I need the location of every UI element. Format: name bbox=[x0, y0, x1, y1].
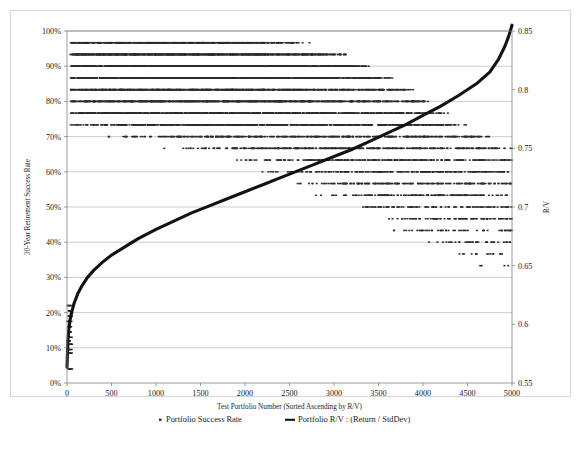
scatter-point bbox=[285, 124, 287, 126]
scatter-point bbox=[260, 54, 262, 56]
scatter-point bbox=[211, 42, 213, 44]
scatter-point bbox=[493, 241, 495, 243]
scatter-point bbox=[135, 112, 137, 114]
scatter-point bbox=[278, 124, 280, 126]
scatter-point bbox=[440, 124, 442, 126]
scatter-point bbox=[111, 89, 113, 91]
scatter-point bbox=[278, 112, 280, 114]
scatter-point bbox=[196, 112, 198, 114]
scatter-point bbox=[182, 42, 184, 44]
scatter-point bbox=[173, 42, 175, 44]
scatter-point bbox=[136, 77, 138, 79]
scatter-point bbox=[470, 136, 472, 138]
scatter-point bbox=[156, 42, 158, 44]
scatter-point bbox=[332, 171, 334, 173]
scatter-point bbox=[471, 195, 473, 197]
scatter-point bbox=[129, 77, 131, 79]
scatter-point bbox=[353, 183, 355, 185]
scatter-point bbox=[414, 206, 416, 208]
scatter-point bbox=[412, 206, 414, 208]
scatter-point bbox=[276, 65, 278, 67]
scatter-point bbox=[178, 42, 180, 44]
scatter-point bbox=[148, 89, 150, 91]
scatter-point bbox=[208, 77, 210, 79]
scatter-point bbox=[422, 101, 424, 103]
scatter-point bbox=[233, 136, 235, 138]
scatter-point bbox=[86, 124, 88, 126]
scatter-point bbox=[368, 159, 370, 161]
scatter-point bbox=[358, 101, 360, 103]
scatter-point bbox=[486, 241, 488, 243]
scatter-point bbox=[293, 148, 295, 150]
scatter-point bbox=[211, 65, 213, 67]
scatter-point bbox=[255, 65, 257, 67]
scatter-point bbox=[96, 65, 98, 67]
scatter-point bbox=[498, 148, 500, 150]
scatter-point bbox=[144, 112, 146, 114]
scatter-point bbox=[312, 101, 314, 103]
scatter-point bbox=[166, 112, 168, 114]
scatter-point bbox=[342, 89, 344, 91]
scatter-point bbox=[161, 101, 163, 103]
scatter-point bbox=[348, 77, 350, 79]
scatter-point bbox=[188, 101, 190, 103]
scatter-point bbox=[191, 89, 193, 91]
scatter-point bbox=[442, 241, 444, 243]
scatter-point bbox=[396, 89, 398, 91]
scatter-point bbox=[355, 65, 357, 67]
scatter-point bbox=[273, 136, 275, 138]
scatter-point bbox=[361, 159, 363, 161]
scatter-point bbox=[155, 65, 157, 67]
scatter-point bbox=[202, 42, 204, 44]
scatter-point bbox=[386, 148, 388, 150]
scatter-point bbox=[281, 148, 283, 150]
scatter-point bbox=[482, 230, 484, 232]
scatter-point bbox=[255, 112, 257, 114]
scatter-point bbox=[442, 171, 444, 173]
scatter-point bbox=[298, 42, 300, 44]
scatter-point bbox=[456, 159, 458, 161]
scatter-point bbox=[432, 206, 434, 208]
scatter-point bbox=[403, 171, 405, 173]
scatter-point bbox=[393, 89, 395, 91]
scatter-point bbox=[418, 218, 420, 220]
scatter-point bbox=[91, 42, 93, 44]
scatter-point bbox=[471, 253, 473, 255]
scatter-point bbox=[456, 171, 458, 173]
scatter-point bbox=[303, 54, 305, 56]
scatter-point bbox=[312, 183, 314, 185]
scatter-point bbox=[242, 89, 244, 91]
scatter-point bbox=[70, 336, 73, 338]
scatter-point bbox=[369, 195, 371, 197]
scatter-point bbox=[251, 159, 253, 161]
scatter-point bbox=[321, 89, 323, 91]
scatter-point bbox=[358, 195, 360, 197]
scatter-point bbox=[465, 241, 467, 243]
scatter-point bbox=[370, 124, 372, 126]
scatter-point bbox=[464, 159, 466, 161]
scatter-point bbox=[365, 101, 367, 103]
scatter-point bbox=[196, 89, 198, 91]
scatter-point bbox=[507, 265, 509, 267]
scatter-point bbox=[397, 195, 399, 197]
scatter-point bbox=[109, 65, 111, 67]
scatter-point bbox=[469, 171, 471, 173]
scatter-point bbox=[109, 89, 111, 91]
scatter-point bbox=[457, 195, 459, 197]
scatter-point bbox=[149, 101, 151, 103]
scatter-point bbox=[334, 89, 336, 91]
scatter-point bbox=[230, 77, 232, 79]
scatter-point bbox=[126, 101, 128, 103]
scatter-point bbox=[330, 171, 332, 173]
scatter-point bbox=[191, 112, 193, 114]
scatter-point bbox=[199, 65, 201, 67]
scatter-point bbox=[306, 77, 308, 79]
scatter-point bbox=[324, 77, 326, 79]
scatter-point bbox=[163, 148, 165, 150]
scatter-point bbox=[413, 171, 415, 173]
scatter-point bbox=[482, 171, 484, 173]
scatter-point bbox=[369, 206, 371, 208]
scatter-point bbox=[118, 65, 120, 67]
scatter-point bbox=[467, 171, 469, 173]
scatter-point bbox=[361, 136, 363, 138]
